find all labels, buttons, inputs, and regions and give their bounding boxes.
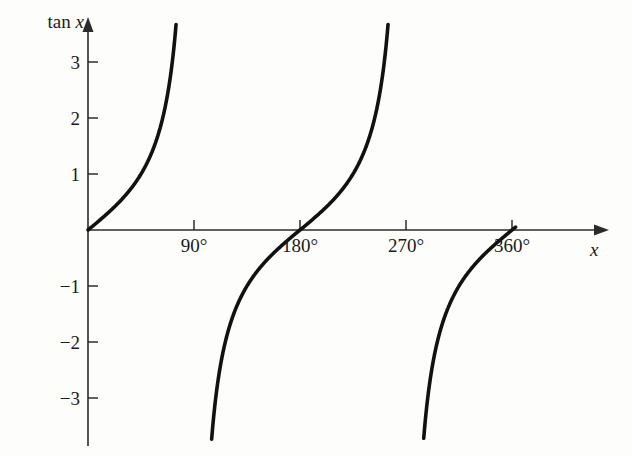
x-axis-arrowhead: [594, 225, 609, 236]
y-axis-tick-label: 2: [71, 109, 81, 128]
y-axis-title: tan x: [48, 12, 84, 31]
x-axis-tick-label: 180°: [282, 236, 318, 255]
y-axis-tick-label: −2: [60, 333, 80, 352]
x-axis-tick-marks: [194, 220, 512, 230]
y-axis-tick-label: 3: [71, 53, 81, 72]
axis-lines: [83, 17, 610, 446]
y-axis-arrowhead: [83, 17, 94, 32]
tangent-function-graph: tan x x 321−1−2−3 90°180°270°360°: [0, 0, 632, 456]
y-axis-title-prefix: tan: [48, 11, 76, 32]
branch-90-to-270: [212, 24, 388, 439]
x-axis-title: x: [590, 240, 598, 259]
x-axis-tick-label: 360°: [494, 236, 530, 255]
branch-0-to-90: [88, 24, 176, 230]
x-axis-tick-label: 270°: [388, 236, 424, 255]
y-axis-title-variable: x: [76, 11, 84, 32]
y-axis-tick-label: −3: [60, 389, 80, 408]
tan-curve-branches: [88, 24, 516, 439]
x-axis-tick-label: 90°: [181, 236, 208, 255]
y-axis-tick-label: −1: [60, 277, 80, 296]
y-axis-tick-label: 1: [71, 165, 81, 184]
plot-canvas: [0, 0, 632, 456]
branch-270-to-360: [424, 227, 516, 438]
